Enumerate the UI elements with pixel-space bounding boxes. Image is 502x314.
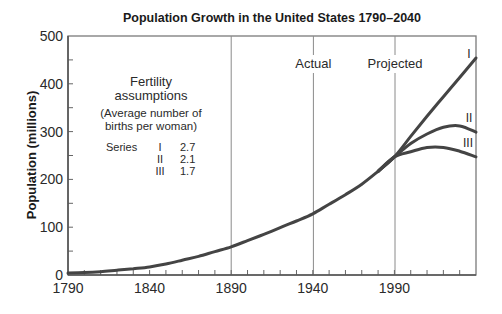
legend-series-value: 1.7 (180, 165, 195, 177)
y-tick-label: 400 (40, 76, 64, 92)
y-axis-label: Population (millions) (24, 91, 39, 220)
legend-series-name: III (155, 165, 164, 177)
legend-subtitle-line2: births per woman) (105, 120, 197, 132)
x-tick-label: 1840 (134, 280, 165, 296)
legend-series-name: I (158, 141, 161, 153)
series-i-end-label: I (467, 47, 470, 61)
legend-subtitle-line1: (Average number of (100, 107, 202, 119)
legend-title-line2: assumptions (115, 88, 188, 103)
legend-series-name: II (157, 153, 163, 165)
actual-label: Actual (295, 56, 331, 71)
plot-frame (68, 36, 476, 275)
legend-title-line1: Fertility (130, 74, 172, 89)
y-tick-label: 100 (40, 219, 64, 235)
series-ii-end-label: II (466, 111, 473, 125)
x-tick-label: 1790 (52, 280, 83, 296)
series-i-line (378, 58, 476, 171)
x-tick-label: 1890 (216, 280, 247, 296)
population-chart: Population Growth in the United States 1… (0, 0, 502, 314)
fertility-legend: Fertility assumptions (Average number of… (100, 74, 202, 177)
legend-series-prefix: Series (106, 141, 138, 153)
y-tick-label: 300 (40, 124, 64, 140)
chart-title: Population Growth in the United States 1… (123, 11, 421, 25)
y-tick-labels: 0 100 200 300 400 500 (40, 28, 64, 283)
x-tick-label: 1940 (297, 280, 328, 296)
y-tick-label: 200 (40, 171, 64, 187)
x-tick-labels: 1790 1840 1890 1940 1990 (52, 280, 410, 296)
series-iii-line (378, 147, 476, 171)
projected-label: Projected (368, 56, 423, 71)
y-tick-label: 500 (40, 28, 64, 44)
reference-lines (231, 36, 395, 275)
x-tick-label: 1990 (379, 280, 410, 296)
legend-series-value: 2.7 (180, 141, 195, 153)
series-iii-end-label: III (463, 136, 473, 150)
legend-series-value: 2.1 (180, 153, 195, 165)
